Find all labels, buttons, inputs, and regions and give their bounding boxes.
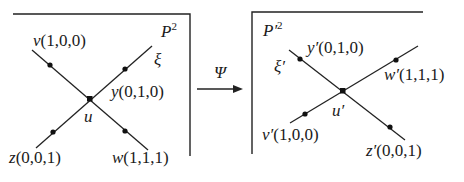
point-v bbox=[47, 62, 52, 67]
point-z bbox=[50, 129, 55, 134]
label-w-prime: w′(1,1,1) bbox=[384, 65, 444, 84]
point-w bbox=[122, 128, 127, 133]
point-w-prime bbox=[393, 57, 398, 62]
point-y bbox=[122, 66, 127, 71]
label-plane-right: P′2 bbox=[262, 19, 283, 40]
point-u-prime bbox=[340, 88, 346, 94]
projective-map-diagram: v(1,0,0) y(0,1,0) z(0,0,1) w(1,1,1) u ξ … bbox=[0, 0, 464, 182]
label-u-prime: u′ bbox=[332, 101, 345, 120]
label-psi: Ψ bbox=[214, 63, 228, 82]
point-y-prime bbox=[297, 56, 302, 61]
arrow-head-icon bbox=[233, 85, 243, 93]
right-plane-panel: y′(0,1,0) w′(1,1,1) v′(1,0,0) z′(0,0,1) … bbox=[252, 12, 444, 160]
label-y-prime: y′(0,1,0) bbox=[305, 38, 364, 57]
label-xi: ξ bbox=[154, 50, 162, 69]
label-plane-left: P2 bbox=[160, 20, 177, 41]
point-z-prime bbox=[387, 124, 392, 129]
label-u: u bbox=[84, 107, 93, 126]
label-w: w(1,1,1) bbox=[112, 148, 169, 167]
label-z: z(0,0,1) bbox=[8, 148, 61, 167]
left-plane-panel: v(1,0,0) y(0,1,0) z(0,0,1) w(1,1,1) u ξ … bbox=[8, 14, 190, 167]
point-v-prime bbox=[302, 111, 307, 116]
label-z-prime: z′(0,0,1) bbox=[365, 141, 422, 160]
point-u bbox=[87, 96, 93, 102]
label-v: v(1,0,0) bbox=[33, 31, 86, 50]
line-vw-prime bbox=[290, 46, 418, 123]
label-xi-prime: ξ′ bbox=[274, 57, 285, 76]
label-y: y(0,1,0) bbox=[109, 82, 164, 101]
label-v-prime: v′(1,0,0) bbox=[262, 125, 319, 144]
mapping-arrow: Ψ bbox=[197, 63, 243, 93]
